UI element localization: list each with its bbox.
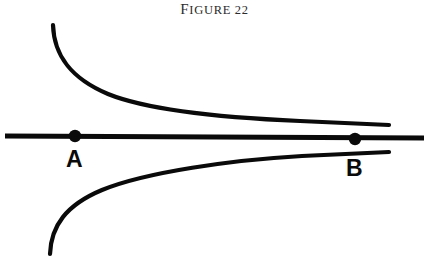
figure-drawing (0, 0, 429, 257)
asymptote-line (5, 136, 424, 138)
point-a-label: A (66, 148, 83, 171)
point-b-marker (349, 133, 361, 145)
figure-page: FIGURE 22 A B (0, 0, 429, 257)
lower-branch-curve (50, 152, 389, 254)
upper-branch-curve (53, 25, 389, 125)
point-a-marker (69, 130, 81, 142)
point-b-label: B (346, 157, 363, 180)
